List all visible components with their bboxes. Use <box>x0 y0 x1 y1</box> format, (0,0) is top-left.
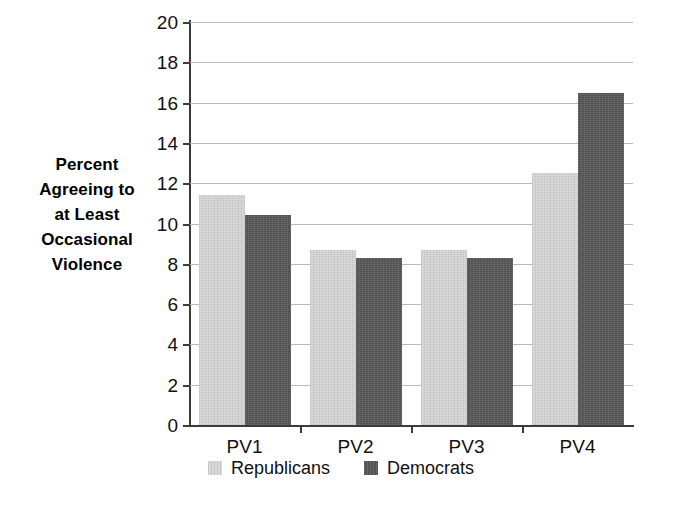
bars-layer <box>189 22 633 425</box>
bar-group <box>532 22 624 425</box>
legend-item: Republicans <box>208 459 330 477</box>
bar-republicans <box>199 195 245 425</box>
y-tick-label: 8 <box>167 254 178 273</box>
y-axis-title-line-2: Agreeing to <box>14 177 160 202</box>
x-tick-mark <box>522 425 524 433</box>
y-tick-label: 2 <box>167 375 178 394</box>
y-tick-label: 12 <box>157 174 178 193</box>
bar-democrats <box>578 93 624 425</box>
y-tick-label: 6 <box>167 295 178 314</box>
y-axis-title-line-1: Percent <box>14 152 160 177</box>
y-axis-title: Percent Agreeing to at Least Occasional … <box>14 152 160 277</box>
y-axis-title-line-3: at Least <box>14 202 160 227</box>
bar-group <box>421 22 513 425</box>
bar-republicans <box>421 250 467 425</box>
x-tick-mark <box>411 425 413 433</box>
x-tick-label: PV4 <box>560 436 596 458</box>
y-axis-title-line-4: Occasional <box>14 227 160 252</box>
bar-republicans <box>532 173 578 425</box>
plot-area: 20181614121086420 PV1PV2PV3PV4 <box>189 22 633 425</box>
legend-item: Democrats <box>364 459 474 477</box>
legend-label: Democrats <box>387 459 474 477</box>
y-tick-label: 10 <box>157 214 178 233</box>
y-axis-title-line-5: Violence <box>14 252 160 277</box>
bar-group <box>199 22 291 425</box>
legend-swatch-republicans <box>208 461 222 475</box>
y-tick-label: 14 <box>157 133 178 152</box>
bar-democrats <box>356 258 402 425</box>
y-tick-label: 18 <box>157 53 178 72</box>
y-tick-label: 4 <box>167 335 178 354</box>
y-tick-label: 16 <box>157 93 178 112</box>
bar-democrats <box>245 215 291 425</box>
legend-swatch-democrats <box>364 461 378 475</box>
y-tick-mark <box>183 425 190 427</box>
y-tick-label: 20 <box>157 13 178 32</box>
x-tick-label: PV2 <box>338 436 374 458</box>
bar-democrats <box>467 258 513 425</box>
bar-chart: Percent Agreeing to at Least Occasional … <box>0 0 682 512</box>
legend-label: Republicans <box>231 459 330 477</box>
y-tick-label: 0 <box>167 416 178 435</box>
bar-group <box>310 22 402 425</box>
x-tick-mark <box>300 425 302 433</box>
bar-republicans <box>310 250 356 425</box>
chart-legend: RepublicansDemocrats <box>0 459 682 477</box>
x-tick-label: PV1 <box>227 436 263 458</box>
x-tick-label: PV3 <box>449 436 485 458</box>
